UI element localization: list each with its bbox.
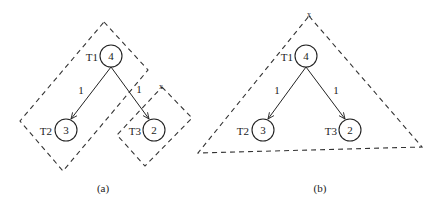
panel-b: x 1 1 4 T1 3 T2 2 T3 (b) (198, 10, 422, 196)
panel-a: x 1 1 4 T1 3 T2 2 T3 (a) (20, 22, 192, 195)
node-t2-value: 3 (63, 124, 69, 136)
node-t1-label: T1 (86, 51, 98, 63)
edge-t1-t2 (71, 67, 111, 119)
caption-a: (a) (97, 182, 110, 195)
edge-weight-t1-t3: 1 (136, 83, 142, 95)
edge-t1-t3 (111, 67, 149, 119)
node-t2-label: T2 (40, 125, 52, 137)
apex-mark: x (307, 10, 311, 19)
node-t1: 4 T1 (281, 45, 317, 67)
node-t3-value: 2 (347, 124, 353, 136)
edge-weight-t1-t2: 1 (274, 84, 280, 96)
node-t3-label: T3 (325, 125, 338, 137)
node-t3-value: 2 (151, 124, 157, 136)
node-t1-value: 4 (108, 50, 114, 62)
edge-t1-t3 (306, 67, 345, 119)
caption-b: (b) (314, 182, 327, 195)
edge-weight-t1-t2: 1 (78, 84, 84, 96)
node-t1-value: 4 (303, 50, 309, 62)
group-whole-tree-boundary (198, 16, 422, 153)
node-t2-value: 3 (260, 124, 266, 136)
edge-weight-t1-t3: 1 (333, 84, 339, 96)
node-t1: 4 T1 (86, 45, 122, 67)
group-t1-t2-boundary (20, 22, 148, 171)
node-t3-label: T3 (129, 125, 142, 137)
node-t2: 3 T2 (237, 119, 274, 141)
node-t3: 2 T3 (129, 119, 165, 141)
node-t1-label: T1 (281, 51, 293, 63)
diagram-canvas: x 1 1 4 T1 3 T2 2 T3 (a) x (0, 0, 439, 205)
group-t3-mark: x (159, 82, 163, 91)
node-t2-label: T2 (237, 125, 249, 137)
node-t3: 2 T3 (325, 119, 361, 141)
node-t2: 3 T2 (40, 119, 77, 141)
